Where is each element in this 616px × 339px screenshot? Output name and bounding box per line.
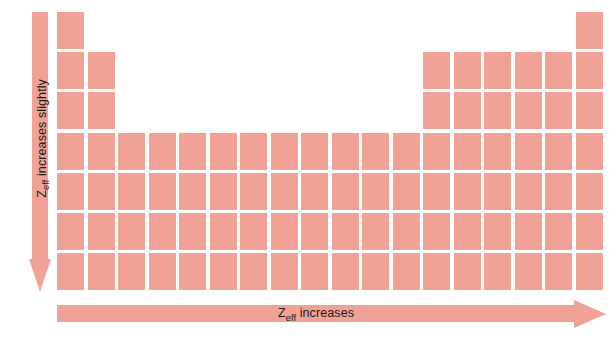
periodic-table-cell [57, 92, 84, 129]
horizontal-label-rest: increases [296, 306, 354, 320]
vertical-label-rest: increases slightly [35, 79, 49, 180]
periodic-table-cell [454, 133, 481, 170]
periodic-table-cell [393, 133, 420, 170]
periodic-table-cell [545, 133, 572, 170]
periodic-table-cell [545, 173, 572, 210]
periodic-table-cell [149, 173, 176, 210]
periodic-table-cell [118, 133, 145, 170]
periodic-table-cell [240, 213, 267, 250]
periodic-table-cell [484, 173, 511, 210]
periodic-table-cell [301, 213, 328, 250]
periodic-table-cell [423, 253, 450, 290]
periodic-table-cell [484, 52, 511, 89]
periodic-table-cell [57, 253, 84, 290]
periodic-table-grid [57, 12, 606, 294]
horizontal-trend-arrow: Zeff increases [57, 300, 606, 328]
periodic-table-cell [423, 173, 450, 210]
periodic-table-cell [88, 213, 115, 250]
periodic-table-cell [484, 253, 511, 290]
periodic-table-cell [515, 52, 542, 89]
periodic-table-cell [545, 52, 572, 89]
periodic-table-cell [118, 173, 145, 210]
vertical-arrow-label: Zeff increases slightly [35, 38, 52, 238]
periodic-table-cell [240, 173, 267, 210]
horizontal-label-subscript: eff [286, 312, 296, 322]
periodic-table-cell [454, 92, 481, 129]
vertical-trend-arrow: Zeff increases slightly [29, 12, 51, 292]
periodic-table-cell [454, 253, 481, 290]
periodic-table-cell [149, 133, 176, 170]
periodic-table-cell [179, 213, 206, 250]
periodic-table-cell [545, 253, 572, 290]
periodic-table-cell [88, 173, 115, 210]
periodic-table-cell [576, 133, 603, 170]
periodic-table-cell [149, 213, 176, 250]
periodic-table-cell [423, 92, 450, 129]
periodic-table-cell [210, 213, 237, 250]
periodic-table-cell [210, 173, 237, 210]
vertical-label-subscript: eff [41, 180, 51, 190]
periodic-table-cell [271, 173, 298, 210]
periodic-table-cell [179, 173, 206, 210]
periodic-table-cell [179, 133, 206, 170]
periodic-table-trend-figure: Zeff increases slightly Zeff increases [0, 0, 616, 339]
horizontal-arrow-label: Zeff increases [57, 300, 575, 328]
periodic-table-cell [271, 253, 298, 290]
periodic-table-cell [393, 173, 420, 210]
periodic-table-cell [301, 133, 328, 170]
periodic-table-cell [362, 253, 389, 290]
periodic-table-cell [118, 253, 145, 290]
vertical-label-symbol: Z [35, 190, 49, 198]
periodic-table-cell [515, 133, 542, 170]
periodic-table-cell [515, 92, 542, 129]
periodic-table-cell [393, 253, 420, 290]
periodic-table-cell [515, 173, 542, 210]
periodic-table-cell [57, 52, 84, 89]
horizontal-label-text: Zeff increases [278, 306, 354, 323]
periodic-table-cell [576, 12, 603, 49]
periodic-table-cell [149, 253, 176, 290]
periodic-table-cell [88, 92, 115, 129]
periodic-table-cell [423, 52, 450, 89]
periodic-table-cell [545, 92, 572, 129]
periodic-table-cell [57, 213, 84, 250]
periodic-table-cell [240, 253, 267, 290]
periodic-table-cell [454, 173, 481, 210]
periodic-table-cell [423, 133, 450, 170]
periodic-table-cell [57, 133, 84, 170]
periodic-table-cell [301, 173, 328, 210]
periodic-table-cell [576, 253, 603, 290]
periodic-table-cell [484, 133, 511, 170]
periodic-table-cell [210, 133, 237, 170]
periodic-table-cell [576, 173, 603, 210]
periodic-table-cell [515, 253, 542, 290]
periodic-table-cell [88, 133, 115, 170]
arrow-right-icon [574, 300, 606, 328]
periodic-table-cell [271, 133, 298, 170]
horizontal-label-symbol: Z [278, 306, 286, 320]
periodic-table-cell [454, 52, 481, 89]
periodic-table-cell [332, 253, 359, 290]
periodic-table-cell [362, 173, 389, 210]
periodic-table-cell [57, 12, 84, 49]
periodic-table-cell [423, 213, 450, 250]
periodic-table-cell [332, 133, 359, 170]
periodic-table-cell [393, 213, 420, 250]
periodic-table-cell [118, 213, 145, 250]
periodic-table-cell [545, 213, 572, 250]
periodic-table-cell [515, 213, 542, 250]
periodic-table-cell [240, 133, 267, 170]
periodic-table-cell [210, 253, 237, 290]
periodic-table-cell [576, 52, 603, 89]
periodic-table-cell [332, 213, 359, 250]
periodic-table-cell [362, 133, 389, 170]
periodic-table-cell [88, 253, 115, 290]
periodic-table-cell [179, 253, 206, 290]
periodic-table-cell [454, 213, 481, 250]
periodic-table-cell [484, 213, 511, 250]
periodic-table-cell [484, 92, 511, 129]
periodic-table-cell [301, 253, 328, 290]
arrow-down-icon [29, 259, 51, 292]
periodic-table-cell [332, 173, 359, 210]
periodic-table-cell [362, 213, 389, 250]
